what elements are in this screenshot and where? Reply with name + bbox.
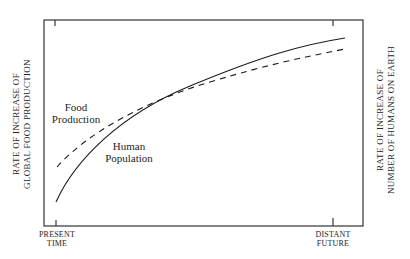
y-right-line2: NUMBER OF HUMANS ON EARTH [386,46,397,194]
human-population-label: Human Population [98,140,160,165]
chart-canvas [0,0,410,259]
y-axis-left-label: RATE OF INCREASE OF GLOBAL FOOD PRODUCTI… [11,59,33,189]
y-right-line1: RATE OF INCREASE OF [375,46,386,194]
food-label-line1: Food [46,101,106,113]
y-axis-right-label: RATE OF INCREASE OF NUMBER OF HUMANS ON … [375,46,397,194]
x-label-future: FUTURE [306,240,360,249]
food-production-label: Food Production [46,101,106,126]
human-label-line1: Human [98,140,160,152]
y-left-line2: GLOBAL FOOD PRODUCTION [22,59,33,189]
x-label-distant-future: DISTANT FUTURE [306,231,360,249]
food-label-line2: Production [46,113,106,125]
x-label-present-time: PRESENT TIME [30,231,84,249]
x-label-time: TIME [30,240,84,249]
y-left-line1: RATE OF INCREASE OF [11,59,22,189]
human-label-line2: Population [98,152,160,164]
